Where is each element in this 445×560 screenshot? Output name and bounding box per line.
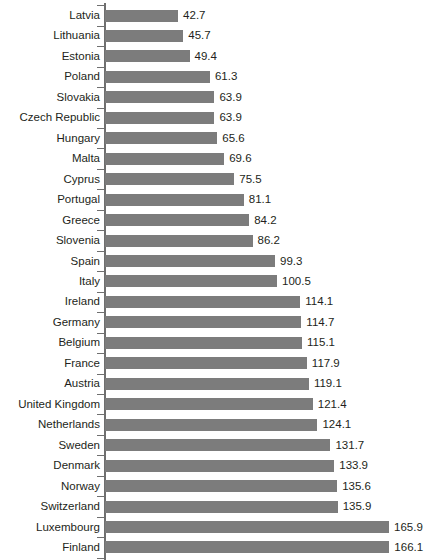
bar xyxy=(105,541,389,553)
category-label: Austria xyxy=(64,377,100,390)
axis-tick xyxy=(97,67,104,68)
category-label: Cyprus xyxy=(64,173,100,186)
category-label: Switzerland xyxy=(41,500,100,513)
value-label: 65.6 xyxy=(222,132,244,145)
category-label: Norway xyxy=(61,480,100,493)
category-label: Belgium xyxy=(58,336,100,349)
axis-tick xyxy=(97,496,104,497)
bar xyxy=(105,357,307,369)
category-label: Spain xyxy=(71,255,100,268)
axis-tick xyxy=(97,108,104,109)
value-label: 84.2 xyxy=(254,214,276,227)
category-label: Poland xyxy=(64,70,100,83)
category-label: Slovakia xyxy=(57,91,100,104)
value-label: 166.1 xyxy=(394,541,423,554)
axis-tick xyxy=(97,558,104,559)
category-label: Denmark xyxy=(53,459,100,472)
axis-tick xyxy=(97,230,104,231)
axis-tick xyxy=(97,46,104,47)
bar xyxy=(105,255,275,267)
category-label: Greece xyxy=(62,214,100,227)
value-label: 86.2 xyxy=(258,234,280,247)
axis-tick xyxy=(97,333,104,334)
category-label: France xyxy=(64,357,100,370)
category-label: Lithuania xyxy=(53,29,100,42)
category-label: Netherlands xyxy=(38,418,100,431)
bar xyxy=(105,194,244,206)
bar xyxy=(105,50,190,62)
value-label: 115.1 xyxy=(307,336,335,349)
category-label: United Kingdom xyxy=(18,398,100,411)
value-label: 63.9 xyxy=(219,91,241,104)
category-label: Portugal xyxy=(57,193,100,206)
value-label: 119.1 xyxy=(314,377,342,390)
value-label: 61.3 xyxy=(215,70,237,83)
value-label: 63.9 xyxy=(219,111,241,124)
value-label: 99.3 xyxy=(280,255,302,268)
value-label: 114.1 xyxy=(305,295,333,308)
category-label: Czech Republic xyxy=(19,111,100,124)
bar xyxy=(105,275,277,287)
value-label: 131.7 xyxy=(335,439,364,452)
bar xyxy=(105,296,300,308)
bar xyxy=(105,337,302,349)
value-label: 45.7 xyxy=(188,29,210,42)
bar xyxy=(105,132,217,144)
axis-tick xyxy=(97,87,104,88)
category-label: Slovenia xyxy=(56,234,100,247)
bar xyxy=(105,153,224,165)
value-label: 49.4 xyxy=(195,50,217,63)
bar xyxy=(105,501,338,513)
axis-tick xyxy=(97,312,104,313)
axis-tick xyxy=(97,251,104,252)
value-label: 100.5 xyxy=(282,275,311,288)
bar xyxy=(105,316,301,328)
axis-tick xyxy=(97,189,104,190)
bar xyxy=(105,235,253,247)
axis-tick xyxy=(97,476,104,477)
category-label: Latvia xyxy=(69,9,100,22)
axis-tick xyxy=(97,5,104,6)
axis-tick xyxy=(97,128,104,129)
bar xyxy=(105,10,178,22)
bar xyxy=(105,30,183,42)
axis-tick xyxy=(97,353,104,354)
value-label: 135.6 xyxy=(342,480,371,493)
axis-tick xyxy=(97,26,104,27)
bar xyxy=(105,378,309,390)
bar xyxy=(105,398,313,410)
bar xyxy=(105,112,214,124)
value-label: 124.1 xyxy=(322,418,351,431)
axis-tick xyxy=(97,435,104,436)
value-label: 81.1 xyxy=(249,193,271,206)
axis-tick xyxy=(97,374,104,375)
bar xyxy=(105,439,330,451)
bar xyxy=(105,480,337,492)
category-label: Luxembourg xyxy=(36,521,100,534)
category-label: Sweden xyxy=(58,439,100,452)
axis-tick xyxy=(97,455,104,456)
bar xyxy=(105,214,249,226)
bar xyxy=(105,91,214,103)
value-label: 135.9 xyxy=(343,500,372,513)
bar xyxy=(105,419,317,431)
axis-tick xyxy=(97,148,104,149)
axis-tick xyxy=(97,537,104,538)
bar xyxy=(105,71,210,83)
value-label: 133.9 xyxy=(339,459,368,472)
axis-tick xyxy=(97,271,104,272)
category-label: Hungary xyxy=(57,132,100,145)
axis-tick xyxy=(97,517,104,518)
category-label: Finland xyxy=(62,541,100,554)
category-label: Ireland xyxy=(65,295,100,308)
category-label: Estonia xyxy=(62,50,100,63)
axis-tick xyxy=(97,414,104,415)
value-label: 114.7 xyxy=(306,316,334,329)
value-label: 165.9 xyxy=(394,521,423,534)
category-label: Malta xyxy=(72,152,100,165)
value-label: 69.6 xyxy=(229,152,251,165)
axis-tick xyxy=(97,169,104,170)
axis-tick xyxy=(97,394,104,395)
category-label: Germany xyxy=(53,316,100,329)
